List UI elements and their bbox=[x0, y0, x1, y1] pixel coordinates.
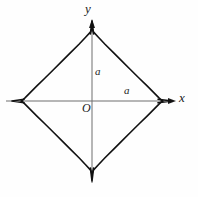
y-intercept-label-a: a bbox=[95, 66, 101, 77]
figure-canvas bbox=[0, 0, 198, 197]
x-axis-label: x bbox=[179, 91, 185, 104]
astroid-figure: y x O a a bbox=[0, 0, 198, 197]
y-axis-label: y bbox=[85, 2, 91, 15]
origin-label: O bbox=[82, 102, 91, 114]
x-intercept-label-a: a bbox=[124, 85, 130, 96]
